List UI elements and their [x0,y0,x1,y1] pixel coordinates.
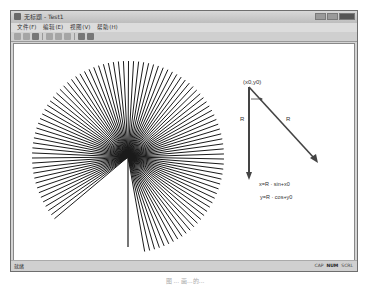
open-folder-icon[interactable] [23,33,30,40]
toolbar-separator [74,33,75,40]
drawing-svg: (x0,y0) R R x=R · sin+x0 y=R · cos+y0 [14,44,354,260]
window-title: 无标题 - Test1 [24,12,64,22]
status-indicators: CAP NUM SCRL [315,262,353,270]
menu-file[interactable]: 文件(F) [17,23,36,32]
save-icon[interactable] [32,33,39,40]
status-text: 就绪 [14,262,24,270]
close-icon[interactable] [339,13,355,20]
drawing-canvas[interactable]: (x0,y0) R R x=R · sin+x0 y=R · cos+y0 [13,43,355,261]
scrl-indicator: SCRL [341,262,353,270]
toolbar-separator [42,33,43,40]
vertical-r-label: R [240,116,245,122]
copy-icon[interactable] [55,33,62,40]
paste-icon[interactable] [64,33,71,40]
diagonal-radius-line [249,87,314,158]
formula-x: x=R · sin+x0 [259,181,290,187]
radial-line-fan [32,61,224,252]
cut-icon[interactable] [46,33,53,40]
arrowhead-icon [246,172,252,180]
app-window: 无标题 - Test1 文件(F) 编辑(E) 视图(V) 帮助(H) (x0,… [10,10,358,272]
menu-view[interactable]: 视图(V) [70,23,90,32]
title-bar[interactable]: 无标题 - Test1 [11,11,357,23]
origin-label: (x0,y0) [243,79,261,85]
cap-indicator: CAP [315,262,324,270]
coordinate-diagram: (x0,y0) R R x=R · sin+x0 y=R · cos+y0 [240,79,318,200]
maximize-icon[interactable] [327,13,338,20]
print-icon[interactable] [78,33,85,40]
menu-help[interactable]: 帮助(H) [97,23,117,32]
menu-edit[interactable]: 编辑(E) [43,23,63,32]
about-icon[interactable] [87,33,94,40]
toolbar [11,32,357,42]
formula-y: y=R · cos+y0 [260,194,292,200]
new-file-icon[interactable] [14,33,21,40]
diagonal-r-label: R [286,116,291,122]
figure-caption: 图 ... 画...的... [0,276,370,285]
app-icon [14,13,21,20]
num-indicator: NUM [326,262,338,270]
menu-bar: 文件(F) 编辑(E) 视图(V) 帮助(H) [11,23,357,32]
status-bar: 就绪 CAP NUM SCRL [11,260,357,271]
minimize-icon[interactable] [315,13,326,20]
window-controls [315,13,355,20]
